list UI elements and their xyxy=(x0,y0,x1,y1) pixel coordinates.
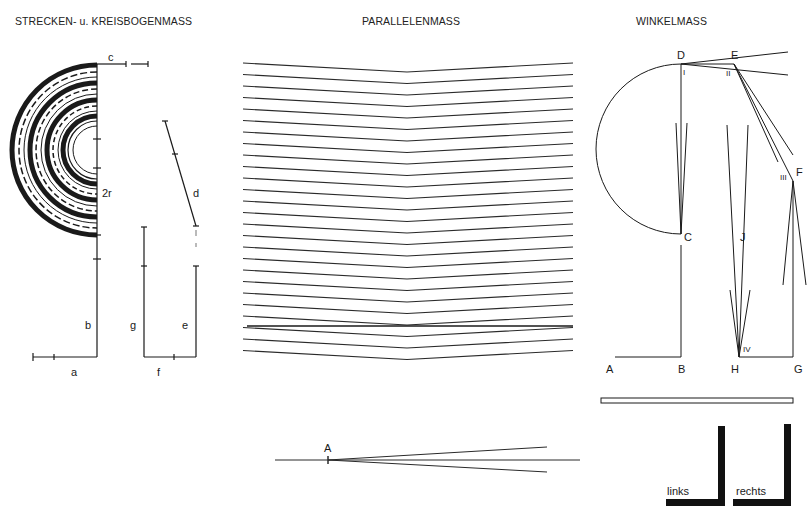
parallel-line xyxy=(243,247,573,256)
parallel-line xyxy=(243,86,573,95)
label-2r: 2r xyxy=(102,187,112,199)
label-G: G xyxy=(794,363,803,375)
parallel-line xyxy=(243,121,573,130)
parallel-line xyxy=(243,98,573,107)
parallel-line xyxy=(243,213,573,222)
label-g: g xyxy=(130,319,136,331)
parallel-line xyxy=(243,339,573,348)
parallel-line xyxy=(243,201,573,210)
ruler-bar xyxy=(601,398,793,403)
parallel-line xyxy=(243,293,573,302)
parallel-chevron-lines xyxy=(243,63,573,360)
label-roman-I: I xyxy=(683,68,685,77)
parallel-line xyxy=(243,190,573,199)
label-b: b xyxy=(85,319,91,331)
parallel-line xyxy=(243,270,573,279)
label-B: B xyxy=(678,363,685,375)
label-links: links xyxy=(667,485,690,497)
parallel-line xyxy=(243,63,573,72)
label-A-bottom: A xyxy=(324,442,332,454)
segment-d xyxy=(162,121,199,247)
parallel-line xyxy=(243,305,573,314)
winkel-labels: D E F C J I II III IV A B H G xyxy=(606,49,803,375)
label-C: C xyxy=(684,231,692,243)
concentric-half-rings xyxy=(12,65,97,235)
segments-g-f-e xyxy=(141,227,199,360)
drawing-canvas: c 2r d b g e a f A xyxy=(0,0,807,510)
label-a: a xyxy=(71,366,78,378)
label-c: c xyxy=(108,51,114,63)
label-f: f xyxy=(157,366,161,378)
parallel-line xyxy=(243,351,573,360)
parallel-line xyxy=(243,167,573,176)
parallel-line xyxy=(243,316,573,325)
angle-figure-A xyxy=(275,447,580,472)
parallel-line xyxy=(243,178,573,187)
parallel-line xyxy=(243,328,573,337)
parallel-line xyxy=(243,109,573,118)
parallel-line xyxy=(243,224,573,233)
label-roman-II: II xyxy=(726,69,730,78)
parallel-line xyxy=(243,155,573,164)
label-roman-IV: IV xyxy=(743,345,751,354)
parallel-line xyxy=(243,75,573,84)
label-e: e xyxy=(182,319,188,331)
label-F: F xyxy=(796,166,803,178)
label-D: D xyxy=(677,49,685,61)
label-d: d xyxy=(193,187,199,199)
parallel-line xyxy=(243,236,573,245)
label-J: J xyxy=(740,231,746,243)
label-H: H xyxy=(731,363,739,375)
parallel-line xyxy=(243,259,573,268)
label-A: A xyxy=(606,363,614,375)
label-E: E xyxy=(731,49,738,61)
winkel-construction xyxy=(596,52,806,357)
parallel-line xyxy=(243,132,573,141)
parallel-line xyxy=(243,282,573,291)
parallel-line xyxy=(243,144,573,153)
label-roman-III: III xyxy=(780,173,787,182)
label-rechts: rechts xyxy=(736,485,766,497)
